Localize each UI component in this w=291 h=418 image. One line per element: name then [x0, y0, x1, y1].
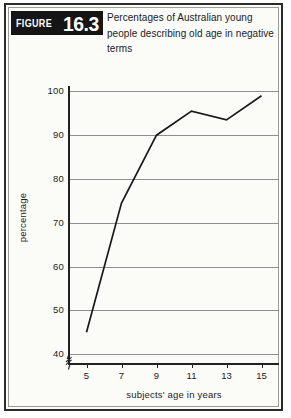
- figure-frame: FIGURE 16.3 Percentages of Australian yo…: [4, 3, 283, 411]
- figure-header: FIGURE 16.3 Percentages of Australian yo…: [6, 5, 285, 67]
- series-polyline: [87, 96, 262, 332]
- figure-banner-word: FIGURE: [16, 17, 52, 29]
- chart-data-line: [6, 67, 285, 411]
- figure-number-banner: FIGURE 16.3: [11, 11, 103, 35]
- chart-plot-area: 405060708090100579111315 percentage subj…: [6, 67, 285, 411]
- figure-title: Percentages of Australian young people d…: [107, 10, 279, 57]
- figure-banner-number: 16.3: [63, 13, 99, 34]
